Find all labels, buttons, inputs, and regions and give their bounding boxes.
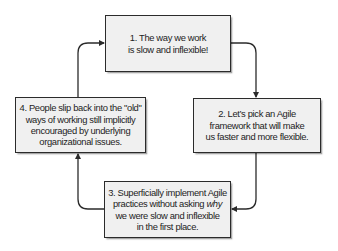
step-3-box: 3. Superficially implement Agile practic…: [104, 181, 231, 238]
step-4-box: 4. People slip back into the "old" ways …: [15, 97, 146, 153]
step-4-line-1: 4. People slip back into the "old": [20, 102, 142, 113]
step-3-line-2: practices without asking why: [113, 198, 222, 209]
edge-3-to-4: [78, 154, 104, 209]
step-3-line-3: we were slow and inflexible: [115, 210, 219, 221]
step-4-line-4: organizational issues.: [39, 136, 121, 147]
agile-cycle-diagram: 1. The way we work is slow and inflexibl…: [0, 0, 338, 251]
step-4-line-3: encouraged by underlying: [31, 125, 131, 136]
edge-1-to-2: [231, 43, 256, 97]
step-4-line-2: ways of working still implicitly: [26, 114, 136, 125]
step-3-line-4: in the first place.: [137, 221, 199, 232]
step-2-line-1: 2. Let’s pick an Agile: [218, 108, 296, 119]
step-3-line-2-text: practices without asking: [113, 198, 204, 209]
step-3-emphasis-why: why: [206, 198, 222, 209]
edge-4-to-1: [78, 43, 104, 97]
step-2-line-3: us faster and more flexible.: [206, 131, 309, 142]
step-2-line-2: framework that will make: [210, 120, 305, 131]
step-3-line-1: 3. Superficially implement Agile: [108, 187, 227, 198]
step-1-box: 1. The way we work is slow and inflexibl…: [105, 15, 231, 72]
step-1-line-1: 1. The way we work: [130, 32, 206, 43]
step-2-box: 2. Let’s pick an Agile framework that wi…: [193, 98, 321, 153]
edge-2-to-3: [232, 153, 256, 209]
step-1-line-2: is slow and inflexible!: [128, 44, 208, 55]
